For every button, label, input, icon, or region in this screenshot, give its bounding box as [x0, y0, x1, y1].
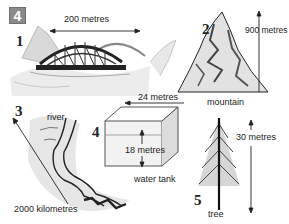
item-number-mountain: 2 — [202, 21, 210, 38]
river-label: river — [47, 112, 65, 122]
bridge-illustration — [10, 26, 150, 96]
item-number-tree: 5 — [194, 192, 202, 209]
bridge-measurement-label: 200 metres — [64, 14, 109, 24]
water-tank-label: water tank — [134, 174, 176, 184]
tank-height-measurement-label: 18 metres — [125, 145, 165, 155]
tree-label: tree — [208, 209, 224, 219]
mountain-measurement-label: 900 metres — [245, 25, 288, 35]
water-tank-illustration — [105, 107, 178, 166]
item-number-water-tank: 4 — [92, 124, 100, 141]
river-measurement-label: 2000 kilometres — [14, 204, 78, 214]
exercise-number-badge: 4 — [9, 7, 26, 24]
tree-measurement-label: 30 metres — [236, 132, 276, 142]
bridge-length-arrow — [50, 29, 140, 33]
item-number-bridge: 1 — [16, 33, 24, 50]
tank-width-measurement-label: 24 metres — [138, 92, 178, 102]
item-number-river: 3 — [15, 103, 23, 120]
mountain-label: mountain — [207, 97, 244, 107]
tree-illustration — [198, 118, 240, 210]
